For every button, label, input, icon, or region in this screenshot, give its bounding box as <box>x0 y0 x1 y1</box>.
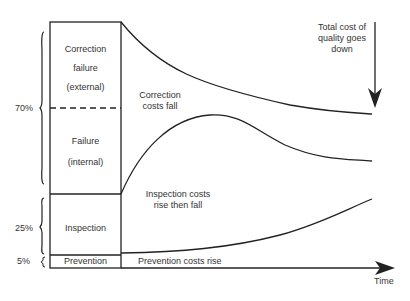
label-line: (external) <box>50 78 121 97</box>
label-line: failure <box>50 59 121 78</box>
prevention-annotation: Prevention costs rise <box>138 256 222 267</box>
label-line: Prevention <box>50 256 121 267</box>
label-line: (internal) <box>50 152 121 173</box>
pct-70: 70% <box>15 103 33 113</box>
block-failure-label: Failure (internal) <box>50 131 121 173</box>
pct-25: 25% <box>15 223 33 233</box>
inspection-annotation: Inspection costs rise then fall <box>138 189 218 211</box>
annotation-line: costs fall <box>130 101 190 112</box>
block-inspection-label: Inspection <box>50 223 121 234</box>
annotation-line: down <box>314 44 370 55</box>
label-line: Inspection <box>50 223 121 234</box>
annotation-line: Total cost of <box>314 22 370 33</box>
brace-25-icon <box>40 198 44 254</box>
label-line: Failure <box>50 131 121 152</box>
correction-annotation: Correction costs fall <box>130 90 190 112</box>
failure-cost-curve <box>121 115 372 194</box>
annotation-line: Inspection costs <box>138 189 218 200</box>
time-axis-label: Time <box>374 276 394 287</box>
total-cost-annotation: Total cost of quality goes down <box>314 22 370 55</box>
block-correction-failure-label: Correction failure (external) <box>50 40 121 97</box>
pct-5: 5% <box>17 256 30 266</box>
brace-70-icon <box>40 32 44 184</box>
brace-5-icon <box>41 257 45 267</box>
annotation-line: quality goes <box>314 33 370 44</box>
label-line: Correction <box>50 40 121 59</box>
block-prevention-label: Prevention <box>50 256 121 267</box>
annotation-line: Correction <box>130 90 190 101</box>
annotation-line: rise then fall <box>138 200 218 211</box>
